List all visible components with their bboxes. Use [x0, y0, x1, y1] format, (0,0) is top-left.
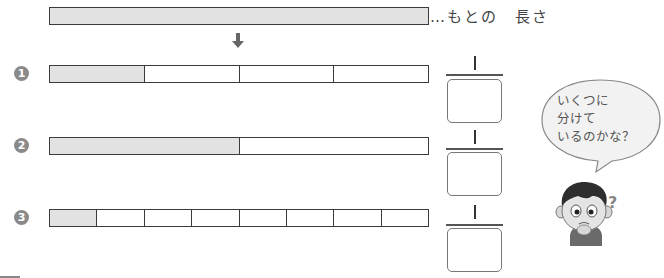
- bar-segment: [240, 66, 335, 82]
- problem-number-3: 3: [14, 210, 29, 225]
- divided-bar-3: [49, 209, 429, 227]
- thinking-boy-icon: ?: [552, 178, 622, 250]
- bar-segment-shaded: [50, 210, 97, 226]
- bar-segment: [145, 66, 240, 82]
- bubble-line-2: 分けて: [557, 110, 596, 128]
- bubble-line-1: いくつに: [557, 92, 609, 110]
- bar-segment: [145, 210, 192, 226]
- speech-bubble: [536, 76, 664, 176]
- fraction-2-numerator: [474, 130, 476, 144]
- bar-segment-shaded: [50, 66, 145, 82]
- bar-segment: [97, 210, 144, 226]
- original-length-label: …もとの 長さ: [430, 5, 549, 26]
- divided-bar-1: [49, 65, 429, 83]
- fraction-3-bar: [446, 224, 503, 226]
- arrow-down-icon: [232, 33, 244, 49]
- problem-number-2: 2: [14, 138, 29, 153]
- fraction-1-denominator-input[interactable]: [447, 79, 502, 123]
- problem-number-1: 1: [14, 66, 29, 81]
- bar-segment: [334, 66, 428, 82]
- bar-segment: [382, 210, 428, 226]
- divider-line: [0, 276, 20, 278]
- fraction-2-denominator-input[interactable]: [447, 152, 502, 196]
- bar-segment: [240, 210, 287, 226]
- fraction-3-denominator-input[interactable]: [447, 228, 502, 272]
- fraction-1-numerator: [474, 56, 476, 70]
- bar-segment: [287, 210, 334, 226]
- bar-segment-shaded: [50, 138, 240, 154]
- bar-segment: [240, 138, 429, 154]
- original-length-bar: [49, 7, 429, 25]
- fraction-2-bar: [446, 148, 503, 150]
- fraction-1-bar: [446, 74, 503, 76]
- bar-segment: [334, 210, 381, 226]
- divided-bar-2: [49, 137, 429, 155]
- question-mark: ?: [608, 193, 617, 212]
- bubble-line-3: いるのかな？: [557, 128, 635, 146]
- bar-segment: [192, 210, 239, 226]
- fraction-3-numerator: [474, 205, 476, 219]
